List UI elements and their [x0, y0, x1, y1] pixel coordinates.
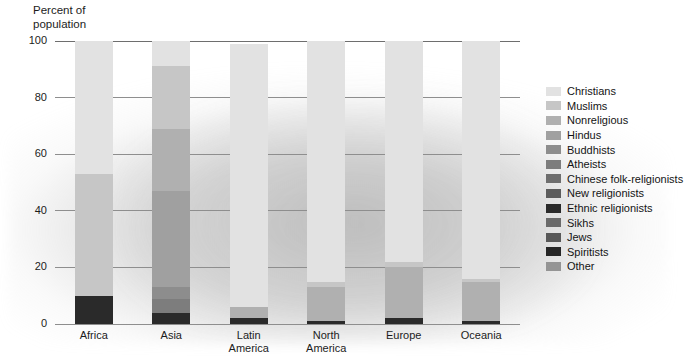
- legend-item-label: Nonreligious: [567, 114, 628, 126]
- bar-segment-nonreligious: [152, 129, 190, 191]
- legend-item: Spiritists: [546, 245, 683, 260]
- legend-item-label: Christians: [567, 85, 616, 97]
- legend-item-label: Ethnic religionists: [567, 202, 653, 214]
- legend-swatch-icon: [546, 160, 561, 169]
- bar-segment-ethnic-religionists: [462, 321, 500, 324]
- legend-swatch-icon: [546, 87, 561, 96]
- bar-segment-christians: [152, 41, 190, 66]
- bar-latin-america: [230, 41, 268, 324]
- bar-segment-nonreligious: [385, 267, 423, 318]
- legend-swatch-icon: [546, 233, 561, 242]
- bar-asia: [152, 41, 190, 324]
- bar-segment-christians: [75, 41, 113, 174]
- legend-item-label: Atheists: [567, 158, 606, 170]
- legend-item: Christians: [546, 84, 683, 99]
- legend-item: Jews: [546, 230, 683, 245]
- gridline-80: [55, 97, 520, 98]
- legend-item: Atheists: [546, 157, 683, 172]
- legend-swatch-icon: [546, 189, 561, 198]
- bar-segment-hindus: [152, 191, 190, 287]
- bar-segment-christians: [462, 41, 500, 279]
- bar-segment-muslims: [462, 279, 500, 282]
- x-axis-label-africa: Africa: [51, 329, 137, 342]
- legend-item: Hindus: [546, 128, 683, 143]
- chart-plot-area: 020406080100AfricaAsiaLatin AmericaNorth…: [55, 41, 520, 324]
- x-axis-label-europe: Europe: [361, 329, 447, 342]
- gridline-0: [55, 324, 520, 325]
- bar-north-america: [307, 41, 345, 324]
- legend-swatch-icon: [546, 131, 561, 140]
- legend-item: Other: [546, 259, 683, 274]
- gridline-20: [55, 267, 520, 268]
- legend-item: Muslims: [546, 99, 683, 114]
- legend-item-label: Muslims: [567, 100, 607, 112]
- bar-segment-christians: [385, 41, 423, 262]
- legend-swatch-icon: [546, 218, 561, 227]
- legend-item-label: Chinese folk-religionists: [567, 173, 683, 185]
- legend-swatch-icon: [546, 262, 561, 271]
- legend-item-label: Jews: [567, 231, 592, 243]
- bar-africa: [75, 41, 113, 324]
- legend-item: Chinese folk-religionists: [546, 172, 683, 187]
- y-axis-tick-80: 80: [21, 91, 47, 103]
- y-axis-tick-60: 60: [21, 147, 47, 159]
- bar-segment-nonreligious: [462, 282, 500, 322]
- legend-swatch-icon: [546, 101, 561, 110]
- bar-oceania: [462, 41, 500, 324]
- legend-item-label: Spiritists: [567, 246, 609, 258]
- bar-segment-muslims: [75, 174, 113, 296]
- x-axis-label-oceania: Oceania: [438, 329, 524, 342]
- gridline-60: [55, 154, 520, 155]
- bar-segment-nonreligious: [230, 307, 268, 318]
- gridline-100: [55, 41, 520, 42]
- legend-item: Buddhists: [546, 142, 683, 157]
- bar-segment-atheists: [152, 299, 190, 313]
- legend-swatch-icon: [546, 116, 561, 125]
- legend-item-label: Other: [567, 260, 595, 272]
- legend-item-label: New religionists: [567, 187, 644, 199]
- chart-legend: ChristiansMuslimsNonreligiousHindusBuddh…: [546, 84, 683, 274]
- legend-item: Ethnic religionists: [546, 201, 683, 216]
- y-axis-tick-0: 0: [21, 317, 47, 329]
- bar-segment-ethnic-religionists: [230, 318, 268, 324]
- legend-item-label: Buddhists: [567, 144, 615, 156]
- bar-segment-ethnic-religionists: [75, 296, 113, 324]
- x-axis-label-latin-america: Latin America: [206, 329, 292, 354]
- legend-item: New religionists: [546, 186, 683, 201]
- x-axis-label-asia: Asia: [128, 329, 214, 342]
- bar-segment-nonreligious: [307, 287, 345, 321]
- y-axis-tick-20: 20: [21, 260, 47, 272]
- x-axis-label-north-america: North America: [283, 329, 369, 354]
- legend-item: Nonreligious: [546, 113, 683, 128]
- bar-segment-muslims: [307, 282, 345, 288]
- y-axis-title: Percent of population: [33, 4, 86, 31]
- bar-segment-ethnic-religionists: [385, 318, 423, 324]
- bar-segment-christians: [230, 44, 268, 307]
- legend-item-label: Hindus: [567, 129, 601, 141]
- legend-swatch-icon: [546, 174, 561, 183]
- y-axis-tick-100: 100: [21, 34, 47, 46]
- legend-item: Sikhs: [546, 215, 683, 230]
- bar-segment-ethnic-religionists: [307, 321, 345, 324]
- bar-segment-christians: [307, 41, 345, 282]
- gridline-40: [55, 210, 520, 211]
- legend-swatch-icon: [546, 247, 561, 256]
- bar-segment-muslims: [152, 66, 190, 128]
- bar-segment-ethnic-religionists: [152, 313, 190, 324]
- legend-swatch-icon: [546, 145, 561, 154]
- bar-segment-buddhists: [152, 287, 190, 298]
- y-axis-tick-40: 40: [21, 204, 47, 216]
- legend-swatch-icon: [546, 204, 561, 213]
- legend-item-label: Sikhs: [567, 217, 594, 229]
- bar-europe: [385, 41, 423, 324]
- bar-segment-muslims: [385, 262, 423, 268]
